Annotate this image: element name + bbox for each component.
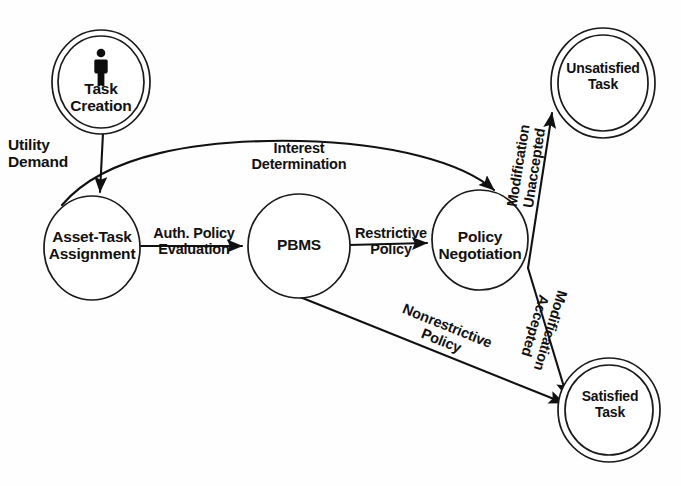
edge-restrictive-policy <box>349 243 427 245</box>
edge-interest-determination <box>62 141 494 205</box>
node-satisfied-task-inner <box>565 365 653 455</box>
edge-nonrestrictive-policy <box>300 297 564 403</box>
node-asset-task-assignment <box>44 196 140 300</box>
node-pbms <box>248 194 350 298</box>
edge-modification-unaccepted <box>528 113 552 268</box>
edge-utility-demand <box>100 133 103 192</box>
node-policy-negotiation <box>432 190 528 290</box>
diagram-canvas <box>0 0 681 486</box>
node-unsatisfied-task-inner <box>558 35 648 131</box>
edge-modification-accepted <box>528 268 567 397</box>
state-transition-diagram: Task Creation Asset-Task Assignment PBMS… <box>0 0 681 486</box>
